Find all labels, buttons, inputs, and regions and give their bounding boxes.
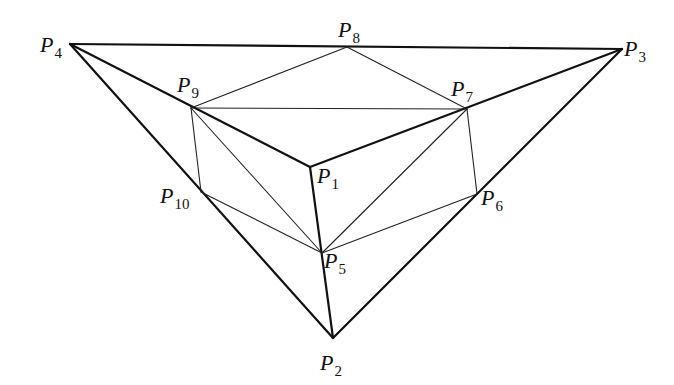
triangulation-diagram: P1P2P3P4P5P6P7P8P9P10 [0, 0, 674, 385]
edge-p10-p5 [201, 192, 322, 253]
edge-p7-p5 [322, 109, 467, 253]
inner-triangulation-edges [191, 47, 477, 253]
edge-p9-p8 [191, 47, 347, 108]
label-p4: P4 [39, 32, 62, 61]
label-p7: P7 [450, 76, 473, 105]
edge-p8-p7 [347, 47, 467, 109]
label-p5: P5 [323, 248, 346, 277]
edge-p3-p2 [333, 49, 622, 338]
edge-p9-p7 [191, 108, 467, 109]
outer-edges [70, 44, 622, 338]
label-p1: P1 [316, 163, 339, 192]
label-p6: P6 [480, 185, 503, 214]
edge-p7-p6 [467, 109, 477, 194]
label-p10: P10 [159, 183, 189, 212]
point-labels: P1P2P3P4P5P6P7P8P9P10 [39, 17, 646, 379]
edge-p4-p3 [70, 44, 622, 49]
edge-p4-p1 [70, 44, 310, 167]
label-p8: P8 [337, 17, 360, 46]
edge-p9-p5 [191, 108, 322, 253]
label-p3: P3 [623, 36, 646, 65]
edge-p6-p5 [322, 194, 477, 253]
label-p2: P2 [319, 350, 342, 379]
label-p9: P9 [176, 72, 199, 101]
edge-p4-p2 [70, 44, 333, 338]
